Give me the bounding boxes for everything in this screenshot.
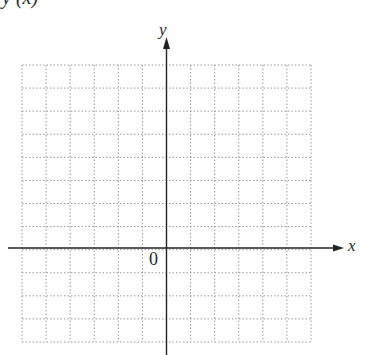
- y-axis-label: y: [159, 20, 167, 40]
- cropped-title: y (x): [2, 0, 38, 9]
- x-axis: [8, 245, 344, 252]
- coordinate-plane: y (x) y x 0: [0, 0, 368, 355]
- x-axis-arrow-icon: [333, 245, 344, 252]
- y-axis: [163, 37, 170, 355]
- grid-plot: [0, 0, 368, 355]
- x-axis-label: x: [348, 236, 356, 256]
- origin-label: 0: [149, 249, 158, 270]
